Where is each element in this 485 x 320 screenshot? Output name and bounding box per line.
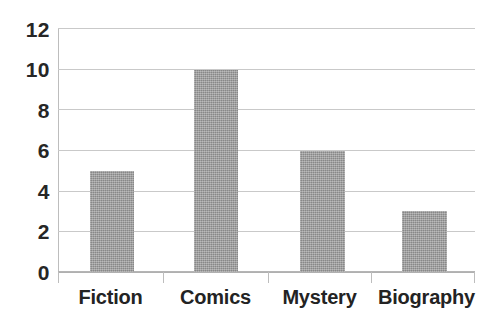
x-tick-0 [58,272,59,283]
x-tick-2 [268,272,269,283]
gridline-6 [58,150,475,151]
x-label-mystery: Mystery [262,286,377,308]
y-tick-label-4: 4 [0,181,50,202]
x-tick-4 [474,272,475,283]
bar-comics [194,70,238,273]
y-tick-label-6: 6 [0,140,50,161]
x-label-fiction: Fiction [52,286,169,308]
y-tick-label-8: 8 [0,100,50,121]
y-tick-label-10: 10 [0,59,50,80]
x-label-biography: Biography [368,286,485,308]
y-tick-label-2: 2 [0,221,50,242]
x-tick-1 [163,272,164,283]
y-tick-label-12: 12 [0,19,50,40]
x-label-comics: Comics [157,286,274,308]
bar-chart: 12 10 8 6 4 2 0 Fiction Comics Myster [0,0,485,320]
gridline-8 [58,109,475,110]
gridline-12 [58,28,475,29]
plot-area [58,28,475,272]
gridline-10 [58,69,475,70]
bar-biography [402,211,447,272]
bar-fiction [90,171,134,272]
x-axis-category-labels: Fiction Comics Mystery Biography [58,286,475,316]
x-tick-3 [371,272,372,283]
bar-mystery [300,151,345,273]
x-axis-ticks [0,272,485,284]
